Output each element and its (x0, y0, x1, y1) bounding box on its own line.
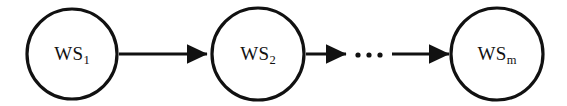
diagram-canvas: WS1 WS2 WSm (0, 0, 567, 106)
node-circle-wsm (451, 8, 543, 100)
node-circle-ws1 (27, 9, 117, 99)
node-circle-ws2 (212, 8, 304, 100)
diagram-graphics (0, 0, 567, 106)
ellipsis-dots-icon (355, 52, 382, 57)
